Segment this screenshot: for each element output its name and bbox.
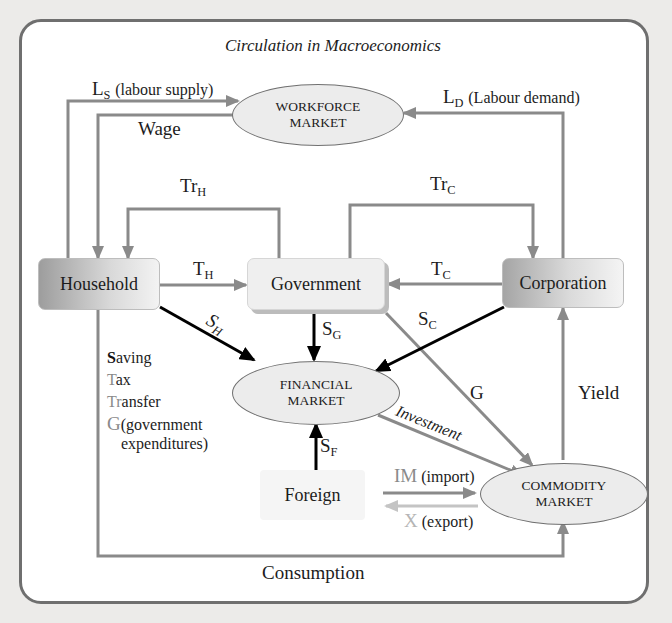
workforce-line-2: MARKET [289,115,346,130]
legend-tax: Tax [107,369,208,391]
label-tax-household: TH [193,258,214,283]
label-saving-corporation: SC [418,308,437,333]
node-corporation: Corporation [502,258,624,308]
node-foreign: Foreign [260,470,365,520]
label-wage: Wage [138,118,181,140]
node-household-label: Household [60,274,138,295]
node-workforce-market: WORKFORCEMARKET [232,84,404,146]
arrow-labour-demand [404,113,563,258]
legend-transfer: Transfer [107,391,208,413]
node-government-label: Government [271,274,361,295]
workforce-line-1: WORKFORCE [276,99,361,114]
label-tax-corporation: TC [431,258,451,283]
label-labour-supply: LS (labour supply) [92,78,213,103]
arrow-government-expenditure [386,313,532,465]
financial-line-1: FINANCIAL [280,377,353,392]
legend-government-expenditures: G(government [107,413,208,436]
label-government-expenditure: G [470,382,484,404]
label-labour-demand: LD (Labour demand) [443,86,580,111]
arrow-transfer-household [128,209,279,258]
arrow-transfer-corporation [350,205,533,258]
commodity-line-1: COMMODITY [522,478,607,493]
legend: Saving Tax Transfer G(government expendi… [107,347,208,452]
legend-government-expenditures-2: expenditures) [107,436,208,452]
node-household: Household [38,258,160,310]
label-transfer-household: TrH [180,175,206,200]
label-consumption: Consumption [262,562,364,584]
label-saving-government: SG [322,318,342,343]
node-corporation-label: Corporation [520,273,607,294]
node-financial-market: FINANCIALMARKET [232,361,400,425]
label-yield: Yield [578,382,619,404]
node-commodity-market: COMMODITYMARKET [480,463,648,525]
label-transfer-corporation: TrC [430,173,456,198]
label-export: X (export) [404,510,473,532]
node-government: Government [247,258,385,310]
label-import: IM (import) [394,465,475,487]
legend-saving: Saving [107,347,208,369]
diagram-title: Circulation in Macroeconomics [225,36,441,56]
label-saving-foreign: SF [320,435,337,460]
arrow-saving-corporation [376,307,504,371]
commodity-line-2: MARKET [535,494,592,509]
financial-line-2: MARKET [288,393,345,408]
node-foreign-label: Foreign [285,485,341,506]
